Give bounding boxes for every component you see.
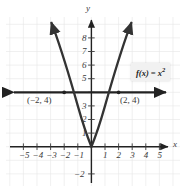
x-tick-label: 2	[117, 151, 122, 160]
y-tick-label: 6	[82, 61, 87, 70]
y-axis-label: y	[86, 4, 90, 13]
function-label: f(x) = x2	[131, 63, 170, 81]
intersection-point-left	[62, 90, 66, 94]
parabola-arrow-left	[51, 22, 54, 31]
annotation-point-right: (2, 4)	[120, 96, 140, 105]
function-label-exponent: 2	[162, 66, 165, 73]
parabola-arrow-right	[129, 22, 132, 31]
x-tick-label: −3	[46, 151, 57, 160]
x-tick-label: 5	[157, 151, 162, 160]
y-tick-label: 7	[82, 47, 87, 56]
y-tick-label: 2	[82, 115, 87, 124]
annotation-point-left: (−2, 4)	[27, 96, 52, 105]
x-tick-label: −1	[73, 151, 84, 160]
x-axis-label: x	[173, 140, 177, 149]
x-tick-label: 4	[144, 151, 149, 160]
x-tick-label: −4	[33, 151, 44, 160]
y-tick-label: 8	[82, 34, 87, 43]
graph-figure: y x −5 −4 −3 −2 −1 1 2 3 4 5 −2 1 2 3 5 …	[0, 0, 190, 193]
y-tick-label: 5	[82, 74, 87, 83]
x-tick-label: 3	[130, 151, 135, 160]
y-tick-label: −2	[74, 170, 85, 179]
x-tick-label: 1	[103, 151, 108, 160]
function-label-text: f(x) = x	[136, 68, 162, 78]
y-tick-label: 1	[82, 129, 87, 138]
x-tick-label: −5	[19, 151, 30, 160]
intersection-point-right	[117, 90, 121, 94]
y-tick-label: 3	[82, 102, 87, 111]
x-tick-label: −2	[60, 151, 71, 160]
